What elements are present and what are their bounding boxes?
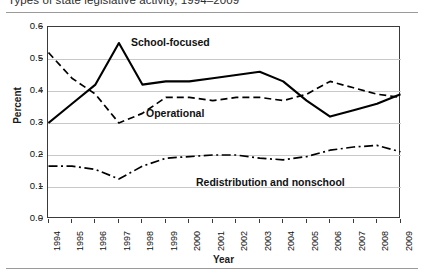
y-tick-label: 0.1	[3, 181, 43, 191]
x-tick-mark	[118, 219, 119, 223]
y-tick-mark	[39, 154, 43, 155]
x-tick-label: 2002	[239, 217, 249, 251]
x-tick-mark	[235, 219, 236, 223]
y-tick-label: 0.6	[3, 21, 43, 31]
y-tick-label: 0.5	[3, 53, 43, 63]
x-axis-ticks: 1994199519961997199819992000200120022003…	[47, 219, 400, 255]
x-tick-label: 1997	[122, 217, 132, 251]
y-tick-mark	[39, 90, 43, 91]
page-title: Types of state legislative activity, 199…	[8, 0, 418, 6]
x-tick-label: 2003	[263, 217, 273, 251]
y-tick-label: 0.0	[3, 213, 43, 223]
x-tick-label: 2001	[216, 217, 226, 251]
x-tick-label: 2004	[286, 217, 296, 251]
x-tick-mark	[329, 219, 330, 223]
x-tick-mark	[400, 219, 401, 223]
x-tick-mark	[141, 219, 142, 223]
y-tick-label: 0.3	[3, 117, 43, 127]
x-tick-mark	[165, 219, 166, 223]
figure-divider-bottom	[6, 268, 418, 269]
series-label-school-focused: School-focused	[131, 36, 210, 48]
series-label-operational: Operational	[146, 107, 204, 119]
x-tick-label: 2007	[357, 217, 367, 251]
x-tick-label: 2006	[333, 217, 343, 251]
x-tick-label: 2000	[192, 217, 202, 251]
y-tick-mark	[39, 122, 43, 123]
x-tick-mark	[94, 219, 95, 223]
x-tick-mark	[188, 219, 189, 223]
x-tick-label: 1995	[75, 217, 85, 251]
y-tick-label: 0.2	[3, 149, 43, 159]
x-tick-label: 1996	[98, 217, 108, 251]
chart-figure: Types of state legislative activity, 199…	[0, 0, 424, 279]
x-tick-label: 1998	[145, 217, 155, 251]
x-axis-title: Year	[47, 254, 400, 265]
x-tick-mark	[353, 219, 354, 223]
x-tick-label: 2009	[404, 217, 414, 251]
y-tick-mark	[39, 218, 43, 219]
x-tick-mark	[376, 219, 377, 223]
y-tick-mark	[39, 186, 43, 187]
x-tick-mark	[306, 219, 307, 223]
series-label-redistribution: Redistribution and nonschool	[196, 176, 345, 188]
title-divider-top	[6, 12, 418, 13]
y-axis-ticks: 0.00.10.20.30.40.50.6	[0, 26, 43, 218]
x-tick-mark	[71, 219, 72, 223]
y-tick-label: 0.4	[3, 85, 43, 95]
x-tick-mark	[259, 219, 260, 223]
x-tick-label: 1994	[52, 217, 62, 251]
x-tick-label: 2008	[380, 217, 390, 251]
x-tick-label: 1999	[169, 217, 179, 251]
y-tick-mark	[39, 26, 43, 27]
x-tick-mark	[212, 219, 213, 223]
x-tick-mark	[282, 219, 283, 223]
x-tick-label: 2005	[310, 217, 320, 251]
series-lines	[48, 27, 401, 219]
plot-area	[47, 26, 400, 218]
x-tick-mark	[48, 219, 49, 223]
y-tick-mark	[39, 58, 43, 59]
